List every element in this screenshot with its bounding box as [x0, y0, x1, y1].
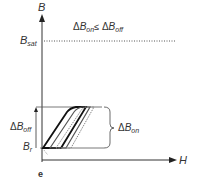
- inequality-label: ΔBon≤ ΔBoff: [73, 22, 123, 33]
- loop-1: [43, 107, 86, 148]
- b-r-label: Br: [23, 142, 32, 153]
- recoil-curve: [44, 150, 48, 155]
- delta-b-on-label: ΔBon: [118, 123, 139, 134]
- h-axis-arrow-icon: [169, 157, 177, 163]
- delta-b-on-brace: [104, 107, 114, 148]
- hysteresis-loops: [43, 107, 94, 148]
- panel-label: e: [38, 170, 43, 179]
- hysteresis-diagram: B H Bsat ΔBon≤ ΔBoff ΔBoff Br ΔBon e: [0, 0, 206, 181]
- b-axis-arrow-icon: [39, 14, 45, 22]
- b-sat-label: Bsat: [20, 35, 37, 47]
- delta-b-off-arrowhead-icon: [34, 107, 38, 112]
- h-axis-label: H: [179, 155, 187, 166]
- delta-b-off-label: ΔBoff: [10, 122, 31, 133]
- loop-3: [56, 107, 94, 148]
- b-axis-label: B: [38, 2, 45, 13]
